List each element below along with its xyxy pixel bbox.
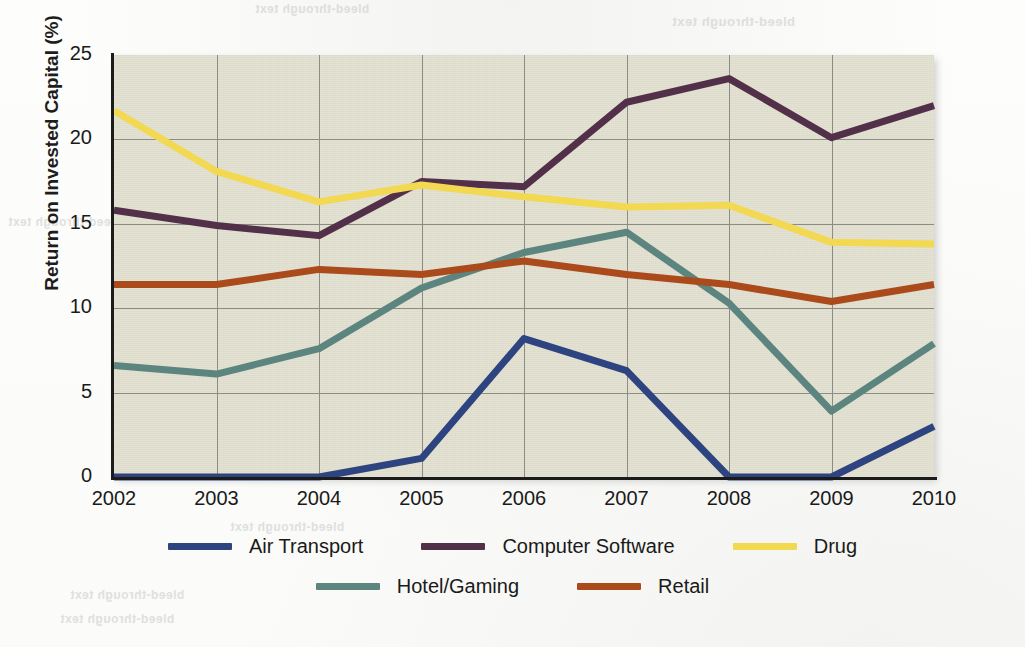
legend-swatch (733, 543, 797, 550)
x-tick-label: 2002 (92, 487, 137, 510)
x-tick-label: 2007 (604, 487, 649, 510)
legend-item: Air Transport (168, 535, 363, 558)
legend-item: Hotel/Gaming (316, 575, 519, 598)
y-axis-line (111, 53, 114, 479)
y-tick-label: 25 (46, 42, 92, 65)
x-tick-label: 2010 (912, 487, 957, 510)
series-line-computer-software (114, 79, 934, 236)
legend-item: Computer Software (421, 535, 674, 558)
legend-row-1: Air TransportComputer SoftwareDrug (0, 535, 1025, 558)
plot-area (114, 55, 934, 477)
x-tick-label: 2008 (707, 487, 752, 510)
x-tick-label: 2003 (194, 487, 239, 510)
x-tick-label: 2004 (297, 487, 342, 510)
y-tick-label: 15 (46, 211, 92, 234)
legend-row-2: Hotel/GamingRetail (0, 575, 1025, 598)
legend-swatch (577, 583, 641, 590)
legend-label: Air Transport (249, 535, 363, 558)
legend-label: Drug (814, 535, 857, 558)
legend-item: Drug (733, 535, 857, 558)
y-tick-label: 0 (46, 464, 92, 487)
legend-swatch (168, 543, 232, 550)
legend-item: Retail (577, 575, 709, 598)
legend-label: Hotel/Gaming (397, 575, 519, 598)
legend-swatch (316, 583, 380, 590)
legend-label: Computer Software (502, 535, 674, 558)
x-tick-label: 2006 (502, 487, 547, 510)
x-tick-label: 2005 (399, 487, 444, 510)
x-tick-label: 2009 (809, 487, 854, 510)
y-tick-label: 10 (46, 295, 92, 318)
chart-legend: Air TransportComputer SoftwareDrug Hotel… (0, 535, 1025, 598)
legend-label: Retail (658, 575, 709, 598)
x-axis-line (111, 477, 937, 480)
legend-swatch (421, 543, 485, 550)
series-line-retail (114, 261, 934, 302)
y-tick-label: 5 (46, 380, 92, 403)
y-tick-label: 20 (46, 126, 92, 149)
line-chart-figure: Return on Invested Capital (%) 252015105… (0, 0, 1025, 647)
series-lines (114, 55, 934, 477)
series-line-air-transport (114, 339, 934, 477)
